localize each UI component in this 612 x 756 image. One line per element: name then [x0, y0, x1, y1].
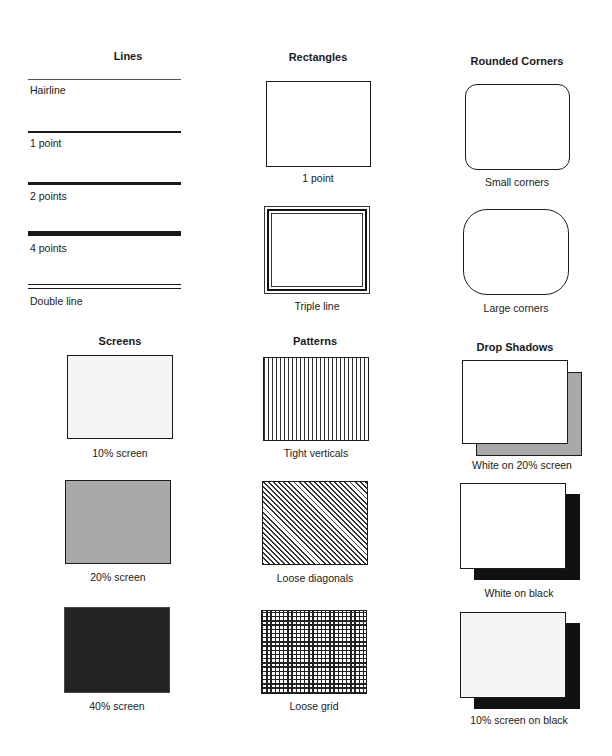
one-point-rectangle [266, 81, 371, 167]
white-front-card [462, 360, 568, 444]
four-point-line-label: 4 points [30, 242, 67, 254]
tight-verticals-label: Tight verticals [226, 447, 406, 459]
rounded-corners-heading: Rounded Corners [437, 55, 597, 67]
screens-heading: Screens [40, 335, 200, 347]
large-corners-label: Large corners [426, 302, 606, 314]
white-on-20-percent-label: White on 20% screen [432, 459, 612, 471]
double-line-sample-bottom [28, 288, 181, 289]
loose-diagonals-swatch [262, 481, 368, 565]
large-corners-rectangle [463, 209, 569, 295]
drop-shadows-heading: Drop Shadows [435, 341, 595, 353]
one-point-line-sample [28, 131, 181, 133]
rectangles-heading: Rectangles [238, 51, 398, 63]
patterns-heading: Patterns [235, 335, 395, 347]
one-point-line-label: 1 point [30, 137, 62, 149]
four-point-line-sample [28, 231, 181, 236]
twenty-percent-screen-swatch [65, 480, 171, 564]
ten-percent-screen-swatch [67, 355, 173, 439]
double-line-sample-top [28, 284, 181, 285]
loose-diagonals-label: Loose diagonals [225, 572, 405, 584]
two-point-line-sample [28, 182, 181, 185]
loose-grid-label: Loose grid [224, 700, 404, 712]
ten-percent-on-black-label: 10% screen on black [429, 714, 609, 726]
triple-line-rectangle [264, 206, 370, 294]
lines-heading: Lines [48, 50, 208, 62]
white-on-black-label: White on black [429, 587, 609, 599]
small-corners-label: Small corners [427, 176, 607, 188]
triple-line-rectangle-label: Triple line [227, 300, 407, 312]
small-corners-rectangle [465, 84, 570, 170]
hairline-label: Hairline [30, 84, 66, 96]
double-line-label: Double line [30, 295, 83, 307]
forty-percent-screen-label: 40% screen [27, 700, 207, 712]
ten-percent-front-card [460, 612, 566, 698]
triple-line-inner [271, 213, 363, 287]
forty-percent-screen-swatch [64, 607, 170, 693]
ten-percent-screen-label: 10% screen [30, 447, 210, 459]
triple-line-middle [267, 209, 367, 291]
white-front-card-2 [460, 483, 566, 569]
hairline-sample [28, 79, 181, 80]
loose-grid-swatch [261, 610, 367, 694]
two-point-line-label: 2 points [30, 190, 67, 202]
one-point-rectangle-label: 1 point [228, 172, 408, 184]
twenty-percent-screen-label: 20% screen [28, 571, 208, 583]
tight-verticals-swatch [263, 357, 369, 441]
